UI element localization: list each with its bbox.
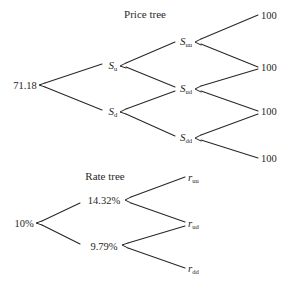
node-suu-subscript: uu	[185, 41, 192, 48]
node-terminal-4: 100	[261, 153, 277, 164]
node-r0: 10%	[14, 218, 34, 229]
node-terminal-2: 100	[261, 62, 277, 73]
node-s0: 71.18	[13, 80, 37, 91]
figure-background	[0, 0, 289, 290]
rate-tree-title: Rate tree	[85, 170, 125, 182]
node-ruu-subscript: uu	[192, 177, 199, 184]
price-tree-title: Price tree	[124, 8, 166, 20]
node-sud-subscript: ud	[185, 88, 192, 95]
node-sdd-subscript: dd	[185, 137, 192, 144]
node-terminal-1: 100	[261, 10, 277, 21]
node-terminal-3: 100	[261, 106, 277, 117]
node-rud-subscript: ud	[192, 223, 199, 230]
node-ru: 14.32%	[88, 195, 121, 206]
node-rdd-subscript: dd	[192, 268, 199, 275]
binomial-tree-figure: Price tree 71.18 Su	[0, 0, 289, 290]
node-rd: 9.79%	[90, 241, 117, 252]
